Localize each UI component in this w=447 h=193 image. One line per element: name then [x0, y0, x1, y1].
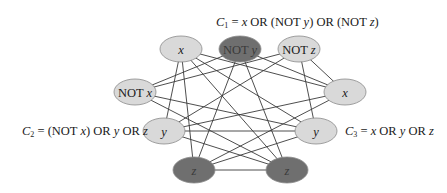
node-label: x [341, 86, 348, 100]
edge-c1_x-c3_x [181, 49, 345, 92]
node-label: x [177, 43, 184, 57]
node-layer: xNOT yNOT zNOT xyzxyz [114, 36, 366, 183]
edge-layer [135, 49, 345, 170]
node-label: z [284, 164, 290, 178]
node-label: NOT x [118, 86, 153, 100]
literal-node-c3_y: y [295, 118, 337, 144]
edge-c1_x-c2_z [181, 49, 194, 170]
node-label: NOT y [223, 43, 258, 57]
node-label: NOT z [282, 43, 316, 57]
clause-2-formula: = (NOT x) OR y OR z [34, 124, 147, 138]
edge-c1_x-c3_z [181, 49, 287, 170]
clause-2-label: C2 = (NOT x) OR y OR z [22, 124, 148, 142]
node-label: y [159, 125, 167, 139]
literal-node-c3_z: z [266, 157, 308, 183]
node-label: z [191, 164, 197, 178]
literal-node-c1_noty: NOT y [219, 36, 261, 62]
clause-1-label: C1 = x OR (NOT y) OR (NOT z) [216, 15, 379, 33]
literal-node-c1_x: x [160, 36, 202, 62]
literal-node-c2_notx: NOT x [114, 79, 156, 105]
literal-node-c1_notz: NOT z [278, 36, 320, 62]
node-label: y [311, 125, 319, 139]
clause-3-formula: = x OR y OR z [357, 124, 434, 138]
literal-node-c2_z: z [173, 157, 215, 183]
literal-node-c2_y: y [143, 118, 185, 144]
literal-node-c3_x: x [324, 79, 366, 105]
clause-3-label: C3 = x OR y OR z [345, 124, 434, 142]
clause-1-formula: = x OR (NOT y) OR (NOT z) [228, 15, 378, 29]
